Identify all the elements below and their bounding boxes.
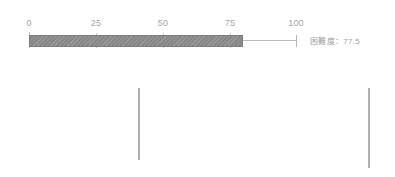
x-axis-tick-labels: 0 25 50 75 100	[0, 18, 395, 31]
bar-whisker-end-cap	[296, 35, 297, 47]
difficulty-bar[interactable]	[29, 35, 243, 47]
vertical-rule-left	[138, 88, 140, 160]
x-axis-tick-label-0: 0	[26, 18, 31, 29]
vertical-rule-right	[368, 88, 370, 168]
x-axis-tick-label-100: 100	[288, 18, 304, 29]
bar-whisker-line	[243, 40, 296, 41]
x-axis-tick-label-50: 50	[158, 18, 168, 29]
chart-canvas: 0 25 50 75 100 困難度：77.5	[0, 0, 395, 177]
x-axis-tick-label-75: 75	[225, 18, 235, 29]
x-axis-tick-label-25: 25	[91, 18, 101, 29]
difficulty-value-label: 困難度：77.5	[310, 36, 360, 48]
